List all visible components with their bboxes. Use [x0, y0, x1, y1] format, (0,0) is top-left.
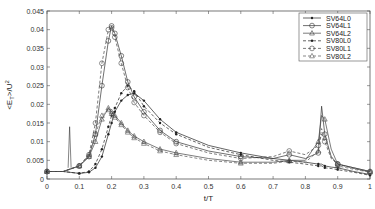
x-tick-label: 0.9	[333, 183, 343, 190]
legend-label: SV64L2	[326, 30, 351, 37]
y-tick-label: 0.015	[26, 120, 44, 127]
x-axis-label: t/T	[204, 194, 213, 203]
legend-label: SV64L1	[326, 22, 351, 29]
y-tick-label: 0.025	[26, 82, 44, 89]
legend-label: SV80L0	[326, 37, 351, 44]
x-tick-label: 0.8	[301, 183, 311, 190]
y-tick-label: 0.01	[30, 138, 44, 145]
x-tick-label: 0.3	[139, 183, 149, 190]
legend-label: SV80L1	[326, 45, 351, 52]
y-tick-label: 0.035	[26, 45, 44, 52]
y-tick-label: 0.045	[26, 8, 44, 15]
x-tick-label: 0.1	[74, 183, 84, 190]
y-tick-label: 0	[40, 176, 44, 183]
x-tick-label: 0.5	[204, 183, 214, 190]
y-tick-label: 0.02	[30, 101, 44, 108]
x-tick-label: 0.2	[107, 183, 117, 190]
x-tick-label: 0.7	[268, 183, 278, 190]
y-axis-label: <ET>/U2	[4, 79, 15, 109]
x-tick-label: 0.4	[171, 183, 181, 190]
legend-label: SV80L2	[326, 53, 351, 60]
x-tick-label: 1	[368, 183, 372, 190]
y-tick-label: 0.005	[26, 157, 44, 164]
y-tick-label: 0.03	[30, 64, 44, 71]
x-tick-label: 0	[45, 183, 49, 190]
y-tick-label: 0.04	[30, 26, 44, 33]
legend-label: SV64L0	[326, 15, 351, 22]
line-chart: 00.10.20.30.40.50.60.70.80.9100.0050.010…	[0, 0, 375, 209]
x-tick-label: 0.6	[236, 183, 246, 190]
legend: SV64L0SV64L1SV64L2SV80L0SV80L1SV80L2	[299, 13, 367, 61]
